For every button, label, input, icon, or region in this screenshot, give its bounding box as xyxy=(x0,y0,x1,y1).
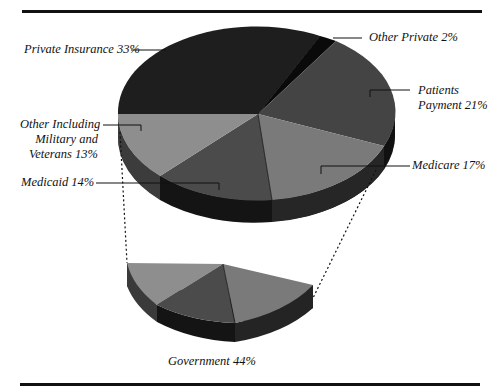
label-patients-line1: Patients xyxy=(418,83,488,98)
label-other-military: Other Including Military and Veterans 13… xyxy=(20,117,98,162)
label-private-insurance: Private Insurance 33% xyxy=(24,42,140,57)
label-other-line1: Other Including xyxy=(20,117,98,132)
label-other-line3: Veterans 13% xyxy=(20,147,98,162)
label-patients-payment: Patients Payment 21% xyxy=(418,83,488,113)
label-medicaid: Medicaid 14% xyxy=(21,175,94,190)
label-other-line2: Military and xyxy=(20,132,98,147)
label-medicare: Medicare 17% xyxy=(412,158,485,173)
pie-chart xyxy=(0,0,500,392)
label-other-private: Other Private 2% xyxy=(369,30,458,45)
label-patients-line2: Payment 21% xyxy=(418,98,488,113)
label-government: Government 44% xyxy=(168,354,256,369)
